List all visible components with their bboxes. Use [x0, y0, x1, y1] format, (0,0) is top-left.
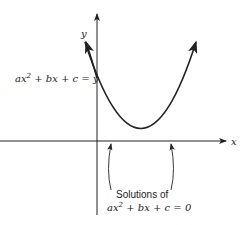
parabola-curve [85, 42, 196, 129]
x-axis-label: x [231, 136, 237, 147]
parabola-diagram: y x ax2 + bx + c = y Solutions of ax2 + … [0, 0, 248, 225]
roots-caption-line2: ax2 + bx + c = 0 [107, 201, 192, 213]
root-pointer-left [109, 144, 112, 190]
curve-equation-label: ax2 + bx + c = y [15, 72, 99, 84]
roots-caption-line1: Solutions of [116, 189, 168, 200]
root-pointer-right [171, 144, 174, 190]
y-axis-label: y [80, 28, 87, 39]
